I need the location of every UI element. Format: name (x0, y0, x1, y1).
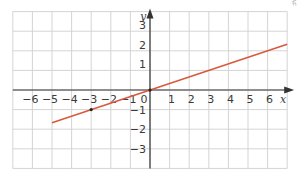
data-point (148, 88, 151, 91)
x-tick-label: 4 (227, 93, 234, 106)
y-tick-label: −3 (130, 143, 146, 156)
y-axis-label: y (139, 10, 147, 23)
y-axis-arrow-icon (147, 9, 154, 19)
y-tick-label: 1 (139, 58, 146, 71)
y-tick-label: 2 (139, 39, 146, 52)
x-axis-label: x (280, 93, 287, 106)
x-tick-label: −5 (42, 93, 58, 106)
x-tick-label: 6 (266, 93, 273, 106)
y-tick-label: −1 (130, 104, 146, 117)
x-tick-label: −6 (22, 93, 38, 106)
x-tick-label: 1 (168, 93, 175, 106)
x-tick-label: −4 (61, 93, 77, 106)
credit-text: DAF (291, 0, 297, 6)
y-tick-label: −2 (130, 123, 146, 136)
x-tick-label: −3 (81, 93, 97, 106)
x-tick-label: 2 (188, 93, 195, 106)
x-tick-label: 5 (247, 93, 254, 106)
data-point (90, 108, 93, 111)
line-chart: −6−5−4−3−2−10123456−3−2−1123xy (0, 0, 298, 179)
x-tick-label: 3 (207, 93, 214, 106)
